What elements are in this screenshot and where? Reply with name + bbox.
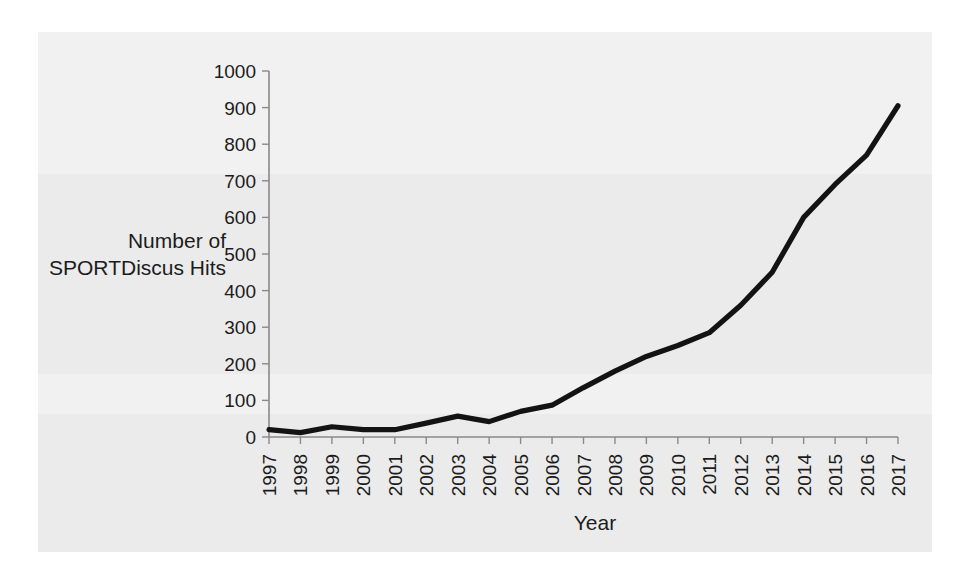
x-tick-label: 2002 — [416, 454, 437, 496]
y-tick-labels: 01002003004005006007008009001000 — [214, 61, 256, 448]
x-tick-label: 2015 — [825, 454, 846, 496]
y-tick-label: 400 — [224, 281, 256, 302]
x-tick-label: 2008 — [605, 454, 626, 496]
x-tick-label: 2000 — [353, 454, 374, 496]
y-tick-label: 0 — [245, 427, 256, 448]
y-tick-label: 500 — [224, 244, 256, 265]
x-tick-label: 2005 — [511, 454, 532, 496]
chart-svg: 01002003004005006007008009001000 1997199… — [0, 0, 969, 582]
y-tick-label: 200 — [224, 354, 256, 375]
y-tick-label: 300 — [224, 317, 256, 338]
figure-root: 01002003004005006007008009001000 1997199… — [0, 0, 969, 582]
x-tick-label: 2013 — [762, 454, 783, 496]
x-tick-label: 2017 — [888, 454, 909, 496]
x-axis-title: Year — [574, 511, 616, 534]
x-tick-label: 2004 — [479, 454, 500, 497]
y-tick-label: 600 — [224, 207, 256, 228]
x-tick-marks — [269, 437, 898, 444]
y-tick-marks — [262, 71, 269, 437]
y-axis-title-line-1: Number of — [128, 229, 226, 252]
x-tick-label: 1999 — [322, 454, 343, 496]
x-tick-label: 2007 — [574, 454, 595, 496]
y-tick-label: 100 — [224, 390, 256, 411]
x-tick-label: 2009 — [636, 454, 657, 496]
y-tick-label: 900 — [224, 98, 256, 119]
x-tick-label: 2011 — [699, 454, 720, 495]
x-tick-label: 1998 — [290, 454, 311, 496]
data-series-line — [269, 106, 898, 433]
x-tick-labels: 1997199819992000200120022003200420052006… — [259, 454, 909, 497]
x-tick-label: 2006 — [542, 454, 563, 496]
x-tick-label: 2016 — [857, 454, 878, 496]
line-chart: 01002003004005006007008009001000 1997199… — [0, 0, 969, 582]
x-tick-label: 2001 — [385, 454, 406, 496]
x-tick-label: 2012 — [731, 454, 752, 496]
y-tick-label: 1000 — [214, 61, 256, 82]
y-tick-label: 800 — [224, 134, 256, 155]
y-tick-label: 700 — [224, 171, 256, 192]
y-axis-title-line-2: SPORTDiscus Hits — [49, 256, 226, 279]
x-tick-label: 2014 — [794, 454, 815, 497]
x-tick-label: 2010 — [668, 454, 689, 496]
x-tick-label: 1997 — [259, 454, 280, 496]
x-tick-label: 2003 — [448, 454, 469, 496]
